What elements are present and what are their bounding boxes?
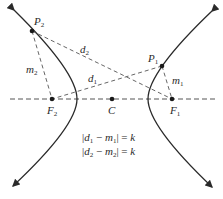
point-f2 [50, 97, 55, 102]
point-c [110, 97, 115, 102]
diagram-canvas: P2 P1 F2 C F1 d2 d1 m2 m1 |d1 − m1| = k … [0, 0, 223, 199]
segment-m1 [162, 66, 172, 99]
label-m2: m2 [26, 63, 38, 77]
point-p2 [30, 29, 35, 34]
label-d2: d2 [80, 43, 90, 57]
segment-m2 [32, 31, 52, 99]
segment-d1 [52, 66, 162, 99]
label-m1: m1 [172, 74, 184, 88]
equation-1: |d1 − m1| = k [82, 131, 136, 145]
point-p1 [160, 64, 165, 69]
label-c: C [108, 104, 116, 116]
label-f1: F1 [169, 104, 181, 118]
hyperbola-diagram: P2 P1 F2 C F1 d2 d1 m2 m1 |d1 − m1| = k … [0, 0, 223, 199]
segment-d2 [32, 31, 172, 99]
label-f2: F2 [46, 104, 58, 118]
label-d1: d1 [88, 72, 98, 86]
equation-2: |d2 − m2| = k [82, 145, 136, 159]
hyperbola-left-branch [13, 10, 77, 186]
point-f1 [170, 97, 175, 102]
label-p2: P2 [33, 15, 45, 29]
label-p1: P1 [147, 52, 159, 66]
